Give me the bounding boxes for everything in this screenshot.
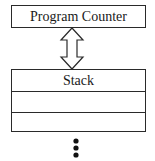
vertical-ellipsis-icon	[0, 0, 155, 161]
